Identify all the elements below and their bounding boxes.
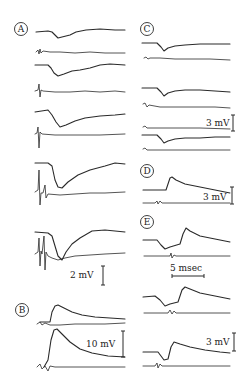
scale-label-c-voltage: 3 mV <box>206 119 230 128</box>
panel-label-b: B <box>16 304 28 316</box>
electrophysiology-figure: A B C D E 2 mV 10 mV 3 mV 3 mV 5 msec 3 … <box>0 0 250 388</box>
scale-label-a-voltage: 2 mV <box>70 271 94 280</box>
scale-label-d-voltage: 3 mV <box>203 193 227 202</box>
panel-e-traces <box>143 228 236 368</box>
panel-label-c: C <box>141 23 153 35</box>
panel-c-traces <box>142 43 235 150</box>
panel-a-traces <box>35 29 125 285</box>
scale-label-b-voltage: 10 mV <box>86 340 115 349</box>
panel-b-traces <box>37 305 125 371</box>
panel-label-e: E <box>141 216 153 228</box>
panel-label-d: D <box>141 165 153 177</box>
panel-label-a: A <box>15 23 27 35</box>
scale-label-e-time: 5 msec <box>170 264 202 273</box>
scale-label-e-voltage: 3 mV <box>206 338 230 347</box>
